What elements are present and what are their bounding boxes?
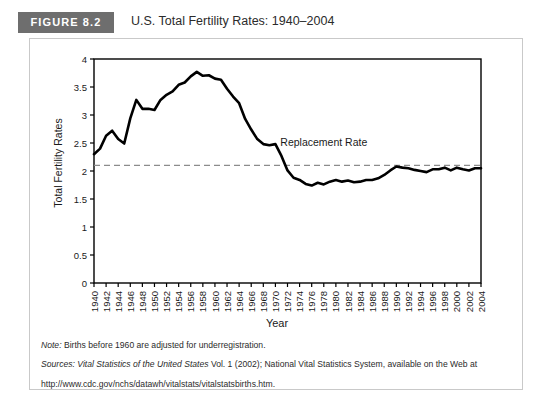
chart-area: 00.511.522.533.5419401942194419461948195… bbox=[30, 39, 524, 337]
x-tick-label: 1956 bbox=[185, 291, 196, 312]
x-tick-label: 1988 bbox=[379, 291, 390, 312]
note-text: Births before 1960 are adjusted for unde… bbox=[62, 340, 266, 350]
y-tick-label: 2 bbox=[82, 166, 87, 177]
x-tick-label: 1998 bbox=[439, 291, 450, 312]
fertility-rate-line bbox=[94, 72, 481, 186]
x-tick-label: 1992 bbox=[403, 291, 414, 312]
x-tick-label: 1948 bbox=[137, 291, 148, 312]
x-tick-label: 2000 bbox=[451, 291, 462, 312]
replacement-rate-annotation: Replacement Rate bbox=[280, 136, 367, 148]
x-tick-label: 1972 bbox=[282, 291, 293, 312]
sources-rest: Vol. 1 (2002); National Vital Statistics… bbox=[209, 359, 478, 369]
x-tick-label: 1978 bbox=[318, 291, 329, 312]
y-tick-label: 1.5 bbox=[74, 194, 87, 205]
x-tick-label: 1960 bbox=[210, 291, 221, 312]
x-tick-label: 1986 bbox=[367, 291, 378, 312]
x-tick-label: 1984 bbox=[355, 291, 366, 312]
y-axis-label: Total Fertility Rates bbox=[52, 98, 64, 228]
sources-url: http://www.cdc.gov/nchs/datawh/vitalstat… bbox=[41, 378, 513, 391]
y-tick-label: 4 bbox=[82, 54, 87, 65]
x-tick-label: 1966 bbox=[246, 291, 257, 312]
x-tick-label: 1990 bbox=[391, 291, 402, 312]
y-tick-label: 0.5 bbox=[74, 250, 87, 261]
sources-label: Sources: bbox=[41, 359, 75, 369]
x-tick-label: 1968 bbox=[258, 291, 269, 312]
x-tick-label: 1994 bbox=[415, 291, 426, 312]
sources-line: Sources: Vital Statistics of the United … bbox=[41, 358, 513, 371]
sources-italic-title: Vital Statistics of the United States bbox=[75, 359, 209, 369]
x-tick-label: 1940 bbox=[89, 291, 100, 312]
x-tick-label: 2004 bbox=[476, 291, 487, 312]
figure-badge: FIGURE 8.2 bbox=[18, 12, 114, 33]
x-tick-label: 1942 bbox=[101, 291, 112, 312]
note-line: Note: Births before 1960 are adjusted fo… bbox=[41, 339, 513, 352]
figure-page: FIGURE 8.2 U.S. Total Fertility Rates: 1… bbox=[0, 0, 552, 411]
fertility-line-chart: 00.511.522.533.5419401942194419461948195… bbox=[30, 39, 524, 337]
x-tick-label: 1962 bbox=[222, 291, 233, 312]
x-tick-label: 1980 bbox=[330, 291, 341, 312]
x-tick-label: 1954 bbox=[173, 291, 184, 312]
y-tick-label: 3 bbox=[82, 110, 87, 121]
figure-title: U.S. Total Fertility Rates: 1940–2004 bbox=[131, 14, 334, 28]
x-tick-label: 1964 bbox=[234, 291, 245, 312]
y-tick-label: 3.5 bbox=[74, 82, 87, 93]
y-tick-label: 1 bbox=[82, 222, 87, 233]
figure-header: FIGURE 8.2 U.S. Total Fertility Rates: 1… bbox=[18, 12, 528, 38]
figure-notes: Note: Births before 1960 are adjusted fo… bbox=[41, 339, 513, 391]
y-tick-label: 2.5 bbox=[74, 138, 87, 149]
x-tick-label: 1952 bbox=[161, 291, 172, 312]
note-label: Note: bbox=[41, 340, 62, 350]
x-tick-label: 1946 bbox=[125, 291, 136, 312]
x-tick-label: 1970 bbox=[270, 291, 281, 312]
x-tick-label: 1982 bbox=[343, 291, 354, 312]
x-tick-label: 1958 bbox=[197, 291, 208, 312]
x-tick-label: 1944 bbox=[113, 291, 124, 312]
x-axis-label: Year bbox=[30, 317, 524, 329]
x-tick-label: 1974 bbox=[294, 291, 305, 312]
x-tick-label: 1996 bbox=[427, 291, 438, 312]
x-tick-label: 2002 bbox=[464, 291, 475, 312]
y-tick-label: 0 bbox=[82, 278, 87, 289]
x-tick-label: 1950 bbox=[149, 291, 160, 312]
figure-card: 00.511.522.533.5419401942194419461948195… bbox=[29, 38, 523, 390]
x-tick-label: 1976 bbox=[306, 291, 317, 312]
